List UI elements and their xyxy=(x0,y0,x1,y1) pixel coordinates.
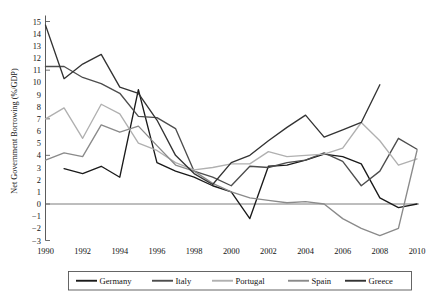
series-line-spain xyxy=(46,125,418,236)
legend-label-greece[interactable]: Greece xyxy=(369,276,394,286)
x-tick-label: 1996 xyxy=(149,247,166,256)
x-tick-label: 2004 xyxy=(297,247,315,256)
y-tick-label: 9 xyxy=(37,91,41,100)
y-tick-label: 1 xyxy=(37,188,41,197)
series-line-greece xyxy=(46,25,380,184)
x-tick-label: 1994 xyxy=(111,247,129,256)
x-tick-label: 2002 xyxy=(260,247,277,256)
x-axis-ticks: 1990199219941996199820002002200420062008… xyxy=(37,247,425,256)
y-tick-label: 6 xyxy=(37,127,41,136)
legend-label-portugal[interactable]: Portugal xyxy=(236,276,266,286)
series-line-portugal xyxy=(46,104,418,170)
x-tick-label: 2000 xyxy=(223,247,240,256)
x-tick-label: 1992 xyxy=(74,247,91,256)
y-tick-label: 12 xyxy=(33,54,41,63)
y-axis-ticks: 1514131211109876543210−1−2−3 xyxy=(32,18,50,246)
x-tick-label: 2010 xyxy=(409,247,426,256)
y-tick-label: −1 xyxy=(32,212,41,221)
chart-figure: Net Government Borrowing (%/GDP) 1514131… xyxy=(0,0,429,300)
y-axis-title: Net Government Borrowing (%/GDP) xyxy=(10,68,19,194)
y-axis-title-text: Net Government Borrowing (%/GDP) xyxy=(10,68,19,194)
y-tick-label: 11 xyxy=(33,66,41,75)
y-tick-label: 5 xyxy=(37,139,41,148)
x-tick-label: 1990 xyxy=(37,247,54,256)
x-tick-label: 1998 xyxy=(186,247,203,256)
y-tick-label: 3 xyxy=(37,164,41,173)
y-tick-label: 15 xyxy=(33,18,41,27)
line-chart: Net Government Borrowing (%/GDP) 1514131… xyxy=(0,0,429,300)
legend-label-italy[interactable]: Italy xyxy=(176,276,192,286)
legend-label-germany[interactable]: Germany xyxy=(100,276,133,286)
y-tick-label: −2 xyxy=(32,224,41,233)
series-line-germany xyxy=(64,90,417,219)
y-tick-label: 2 xyxy=(37,176,41,185)
legend-label-spain[interactable]: Spain xyxy=(312,276,332,286)
y-tick-label: 14 xyxy=(33,30,42,39)
y-tick-label: 13 xyxy=(33,42,41,51)
chart-legend[interactable]: GermanyItalyPortugalSpainGreece xyxy=(69,272,412,291)
y-tick-label: 10 xyxy=(33,78,41,87)
y-tick-label: 0 xyxy=(37,200,41,209)
y-tick-label: 7 xyxy=(37,115,41,124)
y-tick-label: 8 xyxy=(37,103,41,112)
x-tick-label: 2006 xyxy=(334,247,351,256)
x-tick-label: 2008 xyxy=(371,247,388,256)
axis-lines xyxy=(46,16,420,241)
y-tick-label: 4 xyxy=(37,151,42,160)
y-tick-label: −3 xyxy=(32,237,41,246)
